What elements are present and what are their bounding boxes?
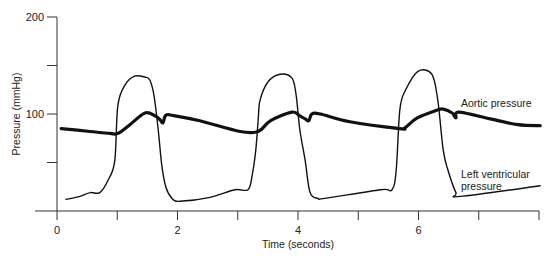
x-axis-title: Time (seconds) <box>262 238 334 250</box>
y-ticks: 100200 <box>26 11 57 163</box>
series-label-aortic: Aortic pressure <box>461 97 532 109</box>
axes: 100200 0246 <box>26 11 539 236</box>
y-tick-label: 100 <box>26 108 44 120</box>
left-ventricular-label-line2: pressure <box>461 180 502 192</box>
pressure-chart: 100200 0246 Pressure (mmHg) Time (second… <box>0 0 553 268</box>
aortic-pressure-line <box>61 109 540 134</box>
left-ventricular-label-line1: Left ventricular <box>461 168 530 180</box>
x-tick-label: 2 <box>174 224 180 236</box>
y-axis-title: Pressure (mmHg) <box>10 73 22 156</box>
x-ticks: 0246 <box>54 211 539 236</box>
x-tick-label: 6 <box>415 224 421 236</box>
x-tick-label: 0 <box>54 224 60 236</box>
x-tick-label: 4 <box>295 224 301 236</box>
y-tick-label: 200 <box>26 11 44 23</box>
aortic-pressure-label: Aortic pressure <box>461 97 532 109</box>
